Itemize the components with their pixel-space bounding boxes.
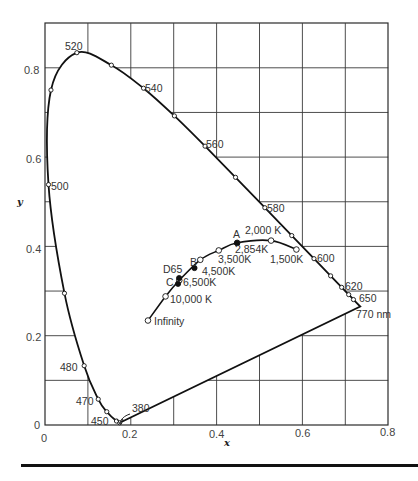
tick-x-0.8: 0.8 [380,426,395,438]
locus-marker [329,274,333,278]
locus-marker [62,291,66,295]
illuminant-label-a: A [233,228,240,240]
tick-y-0.8: 0.8 [24,64,39,76]
planck-marker [163,294,169,300]
locus-marker [49,88,53,92]
wl-label-540: 540 [145,82,163,94]
illuminant-label-b: B [190,256,197,268]
wl-label-560: 560 [206,138,224,150]
wl-label-500: 500 [51,180,69,192]
illuminant-marker-c [175,281,180,286]
illuminant-label-c: C [166,276,174,288]
wl-label-770: 770 nm [356,308,391,320]
spectral-locus [47,52,360,423]
grid [45,23,388,425]
illuminant-marker-d65 [177,276,182,281]
temp-label-1500: 1,500K [270,253,303,265]
wl-label-380: 380 [132,402,150,414]
locus-marker [96,397,100,401]
tick-y-0.4: 0.4 [26,243,41,255]
temp-label-2000: 2,000 K [245,224,281,236]
wl-label-470: 470 [76,395,94,407]
tick-x-0.4: 0.4 [209,428,224,440]
wl-label-580: 580 [267,202,285,214]
tick-y-0.6: 0.6 [26,153,41,165]
locus-marker [82,364,86,368]
wl-label-600: 600 [317,252,335,264]
bottom-rule [21,464,418,467]
locus-marker [46,183,50,187]
locus-marker [233,175,237,179]
temp-label-6500: 6,500K [183,276,216,288]
locus-marker [347,293,351,297]
locus-marker [105,410,109,414]
temp-label-infinity: Infinity [154,315,185,327]
wl-label-480: 480 [60,361,78,373]
chromaticity-chart: 0 0.2 0.4 0.6 0.8 0 0.2 0.4 0.6 0.8 x y … [0,0,418,481]
data-markers [46,51,355,425]
temp-label-3500: 3,500K [218,253,251,265]
wl-label-520: 520 [65,40,83,52]
locus-marker [351,297,355,301]
tick-x-0.2: 0.2 [122,428,137,440]
tick-y-0.2: 0.2 [26,331,41,343]
temp-label-10000: 10,000 K [170,293,212,305]
illuminant-label-d65: D65 [163,263,182,275]
locus-marker [172,114,176,118]
wl-label-620: 620 [345,280,363,292]
tick-x-0: 0 [41,432,47,444]
tick-x-0.6: 0.6 [295,427,310,439]
planck-marker [268,238,274,244]
planck-marker [197,257,203,263]
tick-y-0: 0 [34,419,40,431]
planck-marker [294,247,300,253]
y-axis-title: y [16,196,24,207]
locus-marker [109,63,113,67]
locus-marker [312,257,316,261]
planck-marker [145,318,151,324]
x-axis-title: x [223,437,231,448]
wl-label-650: 650 [359,292,377,304]
locus-marker [290,233,294,237]
wl-label-450: 450 [91,415,109,427]
locus-marker [340,285,344,289]
